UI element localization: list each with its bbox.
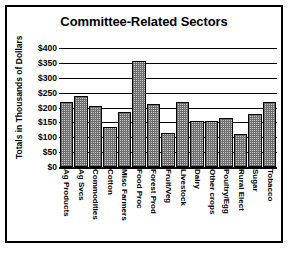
x-tick-label: Misc Farmers — [120, 169, 129, 239]
x-tick-slot: Forest Prod — [146, 169, 161, 239]
bar — [161, 133, 175, 167]
x-tick-slot: Poultry/Egg — [219, 169, 234, 239]
x-tick-label: Dairy — [193, 169, 202, 239]
x-tick-slot: Ag Products — [59, 169, 74, 239]
bar — [132, 61, 146, 167]
y-tick-label: $50 — [9, 147, 57, 157]
bar — [74, 96, 88, 167]
y-axis-tick-labels: $400$350$300$250$200$150$100$50$0 — [7, 48, 57, 167]
x-tick-slot: Commodities — [88, 169, 103, 239]
x-tick-label: Rural Elect — [236, 169, 245, 239]
x-tick-slot: Fruit/Veg — [161, 169, 176, 239]
x-tick-label: Sugar — [251, 169, 260, 239]
bar — [263, 102, 277, 167]
x-tick-label: Ag Svcs — [76, 169, 85, 239]
bar — [205, 121, 219, 167]
bar — [147, 104, 161, 167]
y-tick-label: $0 — [9, 162, 57, 172]
x-tick-label: Fruit/Veg — [163, 169, 172, 239]
y-tick-label: $300 — [9, 73, 57, 83]
bar — [176, 102, 190, 167]
bar — [219, 118, 233, 167]
x-tick-slot: Livestock — [175, 169, 190, 239]
x-tick-label: Other crops — [207, 169, 216, 239]
bar — [190, 121, 204, 167]
x-tick-label: Forest Prod — [149, 169, 158, 239]
y-tick-label: $200 — [9, 103, 57, 113]
plot-area — [59, 48, 277, 167]
x-tick-label: Ag Products — [62, 169, 71, 239]
x-tick-slot: Rural Elect — [233, 169, 248, 239]
x-tick-label: Tobacco — [265, 169, 274, 239]
x-tick-slot: Sugar — [248, 169, 263, 239]
x-tick-label: Poultry/Egg — [222, 169, 231, 239]
bar — [60, 102, 74, 167]
x-tick-slot: Food Proc — [132, 169, 147, 239]
x-tick-slot: Other crops — [204, 169, 219, 239]
bar — [118, 112, 132, 167]
chart-container: Committee-Related Sectors Totals in Thou… — [5, 5, 283, 243]
bar — [234, 134, 248, 167]
bar — [248, 114, 262, 167]
x-tick-slot: Tobacco — [262, 169, 277, 239]
y-tick-label: $350 — [9, 58, 57, 68]
x-axis-tick-labels: Ag ProductsAg SvcsCommoditiesCottonMisc … — [59, 169, 277, 239]
x-tick-label: Commodities — [91, 169, 100, 239]
x-tick-slot: Dairy — [190, 169, 205, 239]
x-tick-slot: Ag Svcs — [74, 169, 89, 239]
bar — [89, 106, 103, 167]
chart-title: Committee-Related Sectors — [7, 14, 281, 29]
bar-series — [59, 48, 277, 167]
y-tick-label: $150 — [9, 117, 57, 127]
x-tick-label: Livestock — [178, 169, 187, 239]
y-tick-label: $100 — [9, 132, 57, 142]
y-tick-label: $400 — [9, 43, 57, 53]
x-tick-label: Cotton — [105, 169, 114, 239]
x-tick-slot: Misc Farmers — [117, 169, 132, 239]
bar — [103, 127, 117, 167]
x-tick-slot: Cotton — [103, 169, 118, 239]
y-tick-label: $250 — [9, 88, 57, 98]
x-tick-label: Food Proc — [134, 169, 143, 239]
